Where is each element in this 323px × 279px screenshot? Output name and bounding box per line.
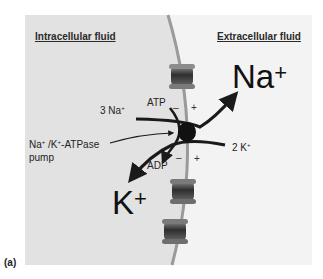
sodium-ion-label: Na+ [232,60,287,93]
membrane-negative-top: – [173,103,179,113]
three-sodium-label: 3 Na+ [100,106,125,116]
potassium-ion-label: K+ [112,186,147,219]
pump-label: Na+ /K+-ATPase pump [29,138,99,164]
extracellular-fluid-label: Extracellular fluid [217,32,301,42]
channel-protein-middle [170,179,196,204]
membrane-positive-bottom: + [194,154,200,164]
adp-label: ADP [147,161,168,171]
membrane-negative-bottom: – [176,153,182,163]
panel-label: (a) [4,258,16,268]
sodium-potassium-pump-diagram: Intracellular fluid Extracellular fluid … [0,0,323,279]
intracellular-fluid-label: Intracellular fluid [35,32,116,42]
atpase-pump [178,122,196,142]
channel-protein-top [169,64,195,89]
channel-protein-bottom [162,219,188,244]
two-potassium-label: 2 K+ [232,143,251,153]
atp-label: ATP [147,98,166,108]
membrane-positive-top: + [191,103,197,113]
